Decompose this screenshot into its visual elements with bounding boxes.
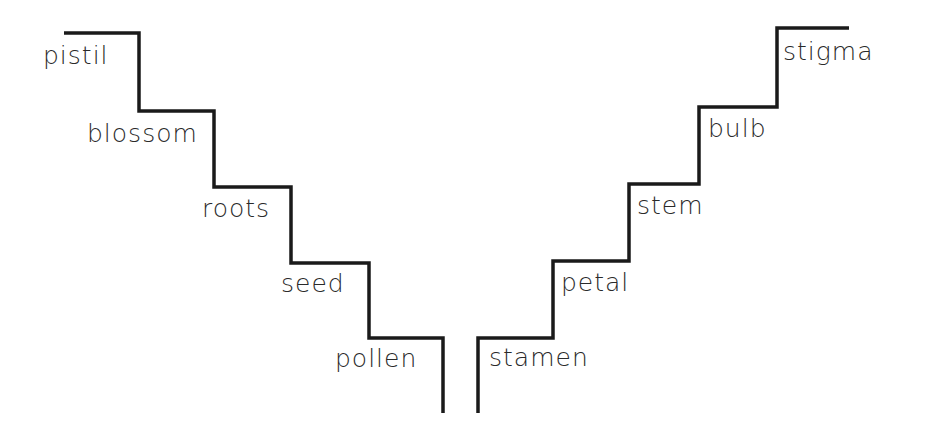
step-label-stem: stem <box>637 193 704 218</box>
step-label-blossom: blossom <box>87 121 198 146</box>
step-label-seed: seed <box>281 271 345 296</box>
step-label-bulb: bulb <box>708 116 767 141</box>
step-label-roots: roots <box>202 196 270 221</box>
staircase-diagram: pistil blossom roots seed pollen stamen … <box>0 0 927 438</box>
step-label-stigma: stigma <box>783 39 873 64</box>
step-label-petal: petal <box>561 270 629 295</box>
step-label-pistil: pistil <box>43 43 109 68</box>
step-label-pollen: pollen <box>335 346 417 371</box>
step-label-stamen: stamen <box>489 345 589 370</box>
